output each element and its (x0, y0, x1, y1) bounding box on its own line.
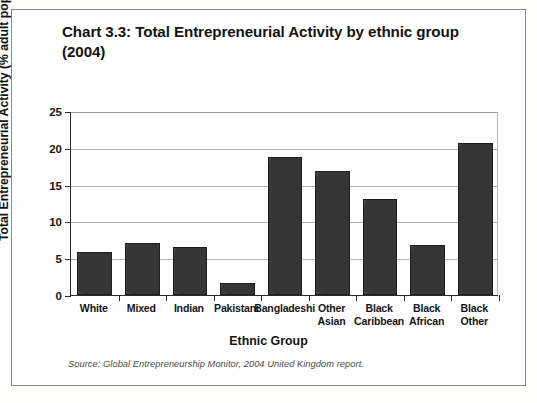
bar (220, 283, 255, 295)
chart-figure: Chart 3.3: Total Entrepreneurial Activit… (0, 0, 537, 403)
y-axis-tick-label: 0 (56, 290, 62, 302)
y-axis-tick-label: 15 (49, 180, 62, 192)
bar (125, 243, 160, 295)
y-axis-tick (65, 296, 71, 297)
bar (363, 199, 398, 295)
y-axis-tick-label: 25 (49, 106, 62, 118)
y-axis-tick (65, 222, 71, 223)
gridline (71, 149, 498, 150)
x-axis-tick (119, 295, 120, 301)
x-axis-tick (451, 295, 452, 301)
y-axis-tick-label: 5 (56, 253, 62, 265)
bar (410, 245, 445, 295)
x-axis-tick (166, 295, 167, 301)
x-axis-tick (309, 295, 310, 301)
x-axis-category-label-line: Black (444, 302, 504, 315)
source-note: Source: Global Entrepreneurship Monitor,… (68, 359, 364, 369)
y-axis-tick (65, 259, 71, 260)
y-axis-title: Total Entrepreneurial Activity (% adult … (0, 0, 11, 241)
x-axis-tick (356, 295, 357, 301)
y-axis-tick-label: 20 (49, 143, 62, 155)
bar (77, 252, 112, 295)
y-axis-tick (65, 112, 71, 113)
bar (315, 171, 350, 295)
y-axis-tick (65, 149, 71, 150)
bar (268, 157, 303, 295)
y-axis-tick (65, 186, 71, 187)
x-axis-tick (499, 295, 500, 301)
chart-title: Chart 3.3: Total Entrepreneurial Activit… (62, 22, 492, 62)
plot-area: 0510152025 (70, 112, 498, 296)
x-axis-tick (404, 295, 405, 301)
plot-right-rule (497, 112, 498, 295)
bar (173, 247, 208, 295)
x-axis-tick (261, 295, 262, 301)
bar (458, 143, 493, 295)
x-axis-category-label-line: Other (444, 315, 504, 328)
y-axis-tick-label: 10 (49, 216, 62, 228)
x-axis-title: Ethnic Group (0, 334, 537, 348)
x-axis-tick (214, 295, 215, 301)
gridline (71, 112, 498, 113)
x-axis-category-label: BlackOther (444, 302, 504, 327)
